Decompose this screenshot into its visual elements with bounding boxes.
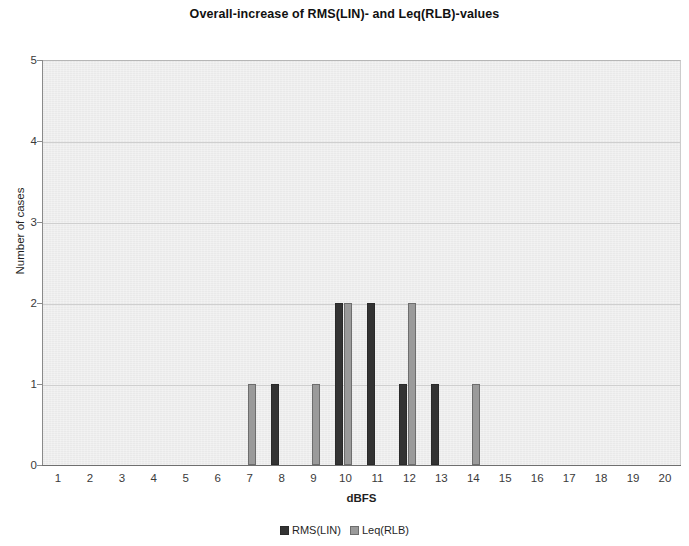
bar bbox=[399, 384, 407, 465]
legend-label: Leq(RLB) bbox=[362, 524, 409, 536]
x-tick-label: 1 bbox=[43, 472, 73, 484]
plot-area bbox=[42, 60, 681, 465]
x-tick-label: 20 bbox=[650, 472, 680, 484]
y-tick-label: 1 bbox=[7, 378, 37, 390]
gridline bbox=[42, 223, 680, 224]
bar bbox=[312, 384, 320, 465]
bar bbox=[408, 303, 416, 465]
x-tick-label: 7 bbox=[235, 472, 265, 484]
x-tick-label: 19 bbox=[618, 472, 648, 484]
bar bbox=[344, 303, 352, 465]
x-tick-label: 6 bbox=[203, 472, 233, 484]
x-tick-label: 4 bbox=[139, 472, 169, 484]
x-tick-label: 13 bbox=[426, 472, 456, 484]
x-tick-label: 10 bbox=[331, 472, 361, 484]
bar bbox=[248, 384, 256, 465]
y-tick-mark bbox=[37, 222, 42, 223]
legend-entry: RMS(LIN) bbox=[280, 524, 341, 536]
bar bbox=[431, 384, 439, 465]
legend-label: RMS(LIN) bbox=[292, 524, 341, 536]
chart-title: Overall-increase of RMS(LIN)- and Leq(RL… bbox=[0, 7, 689, 21]
y-tick-mark bbox=[37, 141, 42, 142]
y-tick-label: 5 bbox=[7, 54, 37, 66]
x-axis-tick-labels: 1234567891011121314151617181920 bbox=[42, 472, 681, 492]
x-tick-label: 17 bbox=[554, 472, 584, 484]
legend-entry: Leq(RLB) bbox=[350, 524, 409, 536]
x-tick-label: 18 bbox=[586, 472, 616, 484]
gridline bbox=[42, 385, 680, 386]
gridline bbox=[42, 142, 680, 143]
x-tick-label: 16 bbox=[522, 472, 552, 484]
x-tick-label: 3 bbox=[107, 472, 137, 484]
y-tick-mark bbox=[37, 384, 42, 385]
y-axis-title: Number of cases bbox=[14, 156, 26, 306]
gridline bbox=[42, 304, 680, 305]
x-tick-label: 15 bbox=[490, 472, 520, 484]
legend-swatch-icon bbox=[350, 526, 359, 535]
x-tick-label: 12 bbox=[394, 472, 424, 484]
y-axis-line bbox=[42, 60, 43, 466]
x-axis-title: dBFS bbox=[42, 492, 681, 504]
chart-legend: RMS(LIN)Leq(RLB) bbox=[0, 524, 689, 536]
x-tick-label: 14 bbox=[458, 472, 488, 484]
y-tick-label: 0 bbox=[7, 459, 37, 471]
legend-swatch-icon bbox=[280, 526, 289, 535]
y-tick-label: 4 bbox=[7, 135, 37, 147]
bar bbox=[335, 303, 343, 465]
x-tick-label: 8 bbox=[267, 472, 297, 484]
x-tick-label: 11 bbox=[362, 472, 392, 484]
y-tick-mark bbox=[37, 303, 42, 304]
bar bbox=[367, 303, 375, 465]
x-tick-label: 2 bbox=[75, 472, 105, 484]
x-tick-label: 5 bbox=[171, 472, 201, 484]
bar bbox=[472, 384, 480, 465]
bar bbox=[271, 384, 279, 465]
x-axis-line bbox=[42, 465, 681, 466]
y-tick-mark bbox=[37, 60, 42, 61]
x-tick-label: 9 bbox=[299, 472, 329, 484]
y-tick-mark bbox=[37, 465, 42, 466]
plot-background-texture bbox=[42, 61, 680, 465]
